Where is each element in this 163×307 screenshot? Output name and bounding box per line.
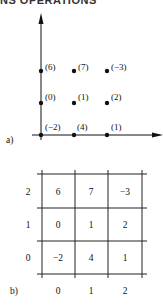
point-label: (1): [111, 122, 122, 132]
y-axis-arrow-icon: [39, 13, 44, 24]
panel-b-label: b): [10, 286, 18, 297]
panel-a-label: a): [6, 135, 13, 146]
row-label: 2: [26, 187, 31, 197]
point-0-1: [39, 101, 43, 105]
point-label: (7): [78, 62, 89, 72]
point-label: (2): [111, 92, 122, 102]
point-0-2: [39, 69, 43, 73]
col-label: 2: [123, 286, 128, 296]
point-2-1: [105, 101, 109, 105]
table-cell: 2: [123, 220, 128, 230]
point-1-2: [72, 69, 76, 73]
table-cell: −2: [53, 253, 63, 263]
point-label: (0): [45, 92, 56, 102]
point-0-0: [39, 133, 43, 137]
table-cell: 4: [89, 253, 94, 263]
table-cell: 7: [89, 187, 94, 197]
table-cell: −3: [120, 187, 130, 197]
point-label: (4): [77, 122, 88, 132]
point-label: (6): [45, 62, 56, 72]
row-label: 0: [26, 253, 31, 263]
point-label: (−3): [111, 62, 127, 72]
table-cell: 1: [123, 253, 128, 263]
point-label: (1): [78, 92, 89, 102]
table-cell: 1: [89, 220, 94, 230]
panel-a: (−2) (4) (1) (0) (1) (2) (6) (7) (−3) a): [6, 13, 163, 146]
point-2-2: [105, 69, 109, 73]
panel-b: 2 1 0 6 7 −3 0 1 2 −2 4 1 0 1 2 b): [10, 170, 147, 297]
table-cell: 0: [56, 220, 61, 230]
point-1-0: [72, 133, 76, 137]
point-1-1: [72, 101, 76, 105]
x-axis-arrow-icon: [152, 133, 163, 138]
col-label: 0: [56, 286, 61, 296]
point-2-0: [105, 133, 109, 137]
table-cell: 6: [56, 187, 61, 197]
col-label: 1: [89, 286, 94, 296]
point-label: (−2): [45, 122, 61, 132]
row-label: 1: [26, 220, 31, 230]
figure: (−2) (4) (1) (0) (1) (2) (6) (7) (−3) a)…: [0, 0, 163, 307]
